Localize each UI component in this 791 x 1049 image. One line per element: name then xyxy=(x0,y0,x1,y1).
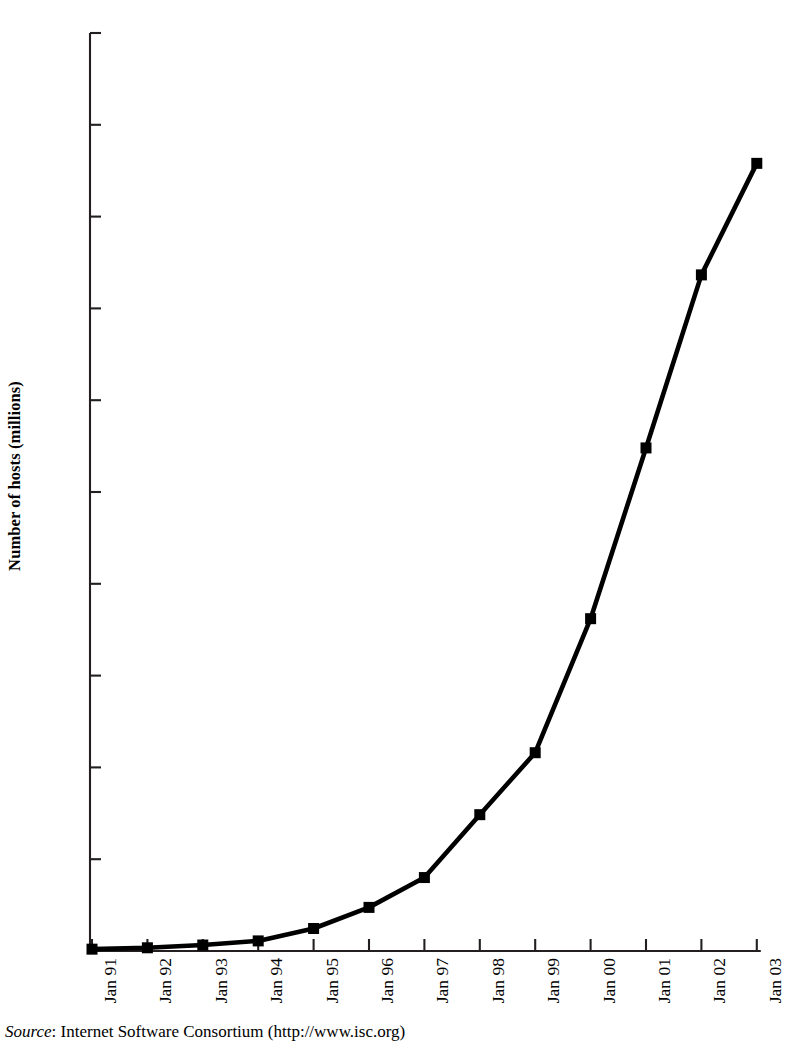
x-axis-tick-label: Jan 03 xyxy=(766,958,784,1049)
x-axis-tick-label: Jan 98 xyxy=(489,958,507,1049)
source-text: : Internet Software Consortium (http://w… xyxy=(52,1022,406,1041)
x-axis-tick-label: Jan 01 xyxy=(655,958,673,1049)
chart-figure: Number of hosts (millions) 2040608010012… xyxy=(0,0,791,1049)
source-label: Source xyxy=(5,1022,52,1041)
x-axis-tick-label: Jan 97 xyxy=(433,958,451,1049)
x-axis-tick-label: Jan 02 xyxy=(710,958,728,1049)
source-caption: Source: Internet Software Consortium (ht… xyxy=(5,1022,405,1042)
x-axis-tick-label: Jan 00 xyxy=(600,958,618,1049)
x-axis-tick-label: Jan 99 xyxy=(544,958,562,1049)
x-axis-tick-labels: Jan 91Jan 92Jan 93Jan 94Jan 95Jan 96Jan … xyxy=(0,0,791,1049)
